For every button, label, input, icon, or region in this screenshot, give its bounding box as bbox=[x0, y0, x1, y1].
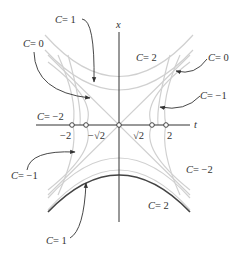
label-cm1-left: C= −1 bbox=[11, 170, 38, 181]
tick-label-neg2: −2 bbox=[60, 130, 71, 141]
tick-label-2: 2 bbox=[167, 130, 172, 141]
tick-label-neg-sqrt2: −√2 bbox=[88, 130, 105, 141]
label-c0-right: C= 0 bbox=[208, 52, 229, 63]
solution-curves-diagram: t x −2 −√2 √2 2 C= 1 C= 0 C= 2 C= 0 C= −… bbox=[0, 0, 241, 253]
label-cm2-left: C= −2 bbox=[37, 111, 64, 122]
label-c2-bottom: C= 2 bbox=[148, 200, 169, 211]
annotation-labels: C= 1 C= 0 C= 2 C= 0 C= −1 C= −2 C= −1 C=… bbox=[11, 14, 229, 246]
label-c0-left: C= 0 bbox=[23, 38, 44, 49]
x-axis-label: x bbox=[115, 19, 121, 30]
label-cm2-right: C= −2 bbox=[186, 164, 213, 175]
t-axis-label: t bbox=[194, 119, 198, 130]
tick-label-sqrt2: √2 bbox=[133, 130, 144, 141]
label-c1-bottom: C= 1 bbox=[46, 235, 67, 246]
label-cm1-right: C= −1 bbox=[200, 90, 227, 101]
label-c1-top: C= 1 bbox=[55, 14, 76, 25]
tick-markers bbox=[70, 123, 169, 128]
label-c2-top: C= 2 bbox=[136, 52, 157, 63]
